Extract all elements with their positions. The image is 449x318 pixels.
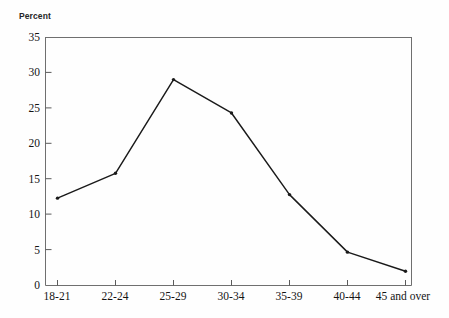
data-line-percent [58,80,406,272]
plot-frame [46,37,412,286]
data-point-45-and-over [404,270,407,273]
plot-area [0,0,449,318]
data-point-18-21 [56,196,59,199]
data-point-30-34 [230,111,233,114]
data-point-25-29 [172,78,175,81]
data-point-22-24 [114,172,117,175]
data-point-40-44 [346,250,349,253]
x-axis-ticks [58,280,406,286]
y-axis-ticks [46,72,52,249]
data-point-35-39 [288,193,291,196]
data-markers [56,78,407,273]
chart-container: Percent 35 30 25 20 15 10 5 0 18-21 22-2… [0,0,449,318]
